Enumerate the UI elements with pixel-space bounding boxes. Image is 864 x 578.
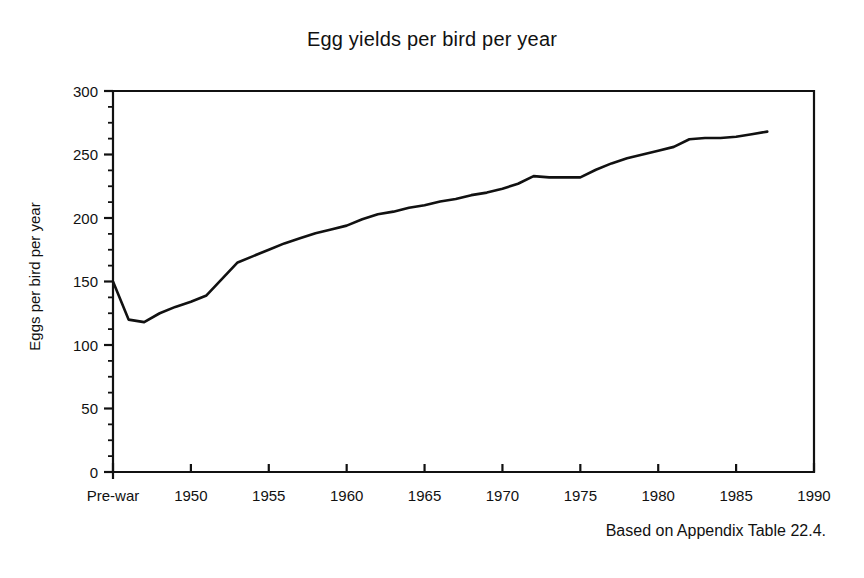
x-tick-label: 1970 bbox=[486, 487, 519, 504]
chart-plot: 050100150200250300Pre-war195019551960196… bbox=[0, 0, 864, 578]
y-tick-label: 150 bbox=[73, 273, 98, 290]
x-tick-label: 1975 bbox=[564, 487, 597, 504]
y-tick-label: 250 bbox=[73, 146, 98, 163]
y-tick-label: 200 bbox=[73, 210, 98, 227]
y-tick-label: 0 bbox=[90, 464, 98, 481]
x-tick-label: 1980 bbox=[642, 487, 675, 504]
y-tick-label: 300 bbox=[73, 83, 98, 100]
chart-tick-labels: 050100150200250300Pre-war195019551960196… bbox=[73, 83, 831, 505]
chart-series bbox=[113, 132, 767, 323]
y-tick-label: 50 bbox=[81, 400, 98, 417]
chart-figure: Egg yields per bird per year Eggs per bi… bbox=[0, 0, 864, 578]
x-tick-label: 1985 bbox=[719, 487, 752, 504]
source-note: Based on Appendix Table 22.4. bbox=[0, 522, 826, 540]
series-line bbox=[113, 132, 767, 323]
x-tick-label: 1965 bbox=[408, 487, 441, 504]
x-tick-label: 1950 bbox=[174, 487, 207, 504]
x-tick-label: Pre-war bbox=[87, 487, 140, 504]
x-tick-label: 1990 bbox=[797, 487, 830, 504]
y-tick-label: 100 bbox=[73, 337, 98, 354]
chart-ticks bbox=[104, 91, 814, 479]
x-tick-label: 1955 bbox=[252, 487, 285, 504]
x-tick-label: 1960 bbox=[330, 487, 363, 504]
